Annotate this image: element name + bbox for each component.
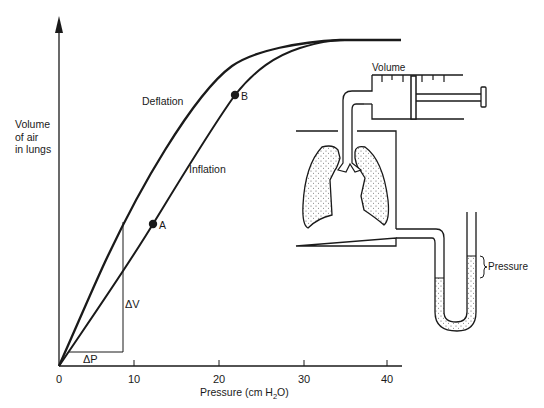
deflation-curve xyxy=(59,40,401,366)
point-a-marker xyxy=(149,220,157,228)
x-tick-label: 10 xyxy=(128,373,140,385)
manometer: Pressure xyxy=(435,212,528,331)
chart: 0 10 20 30 40 Pressure (cm H2O) Volume o… xyxy=(15,16,402,401)
manometer-fluid xyxy=(435,256,476,331)
syringe-volume-label: Volume xyxy=(372,62,406,73)
x-tick-label: 20 xyxy=(213,373,225,385)
deflation-label: Deflation xyxy=(142,95,184,107)
delta-p-label: ΔP xyxy=(83,353,98,365)
inflation-label: Inflation xyxy=(189,163,226,175)
point-b-label: B xyxy=(241,90,248,102)
syringe: Volume xyxy=(364,62,486,119)
manometer-pressure-label: Pressure xyxy=(488,261,528,272)
x-tick-label: 40 xyxy=(381,373,393,385)
y-axis-title-line: of air xyxy=(15,131,39,143)
pressure-brace xyxy=(480,256,487,278)
lungs-icon xyxy=(303,146,389,228)
x-axis-ticks xyxy=(134,360,387,366)
delta-v-label: ΔV xyxy=(125,298,140,310)
inflation-curve xyxy=(59,40,345,366)
syringe-plunger xyxy=(411,76,416,119)
apparatus: Volume Pressure xyxy=(296,62,528,331)
trachea-tube xyxy=(343,91,364,150)
x-tick-label: 30 xyxy=(298,373,310,385)
point-a-label: A xyxy=(159,219,166,231)
y-axis-title-line: in lungs xyxy=(15,143,51,155)
point-b-marker xyxy=(231,91,239,99)
y-axis-title-line: Volume xyxy=(15,118,50,130)
x-axis-title: Pressure (cm H2O) xyxy=(200,386,289,401)
y-axis-arrow-icon xyxy=(55,16,63,33)
pressure-volume-diagram: 0 10 20 30 40 Pressure (cm H2O) Volume o… xyxy=(0,0,544,408)
x-tick-label: 0 xyxy=(56,373,62,385)
syringe-plunger-handle xyxy=(481,87,486,107)
manometer-tube xyxy=(396,229,444,280)
